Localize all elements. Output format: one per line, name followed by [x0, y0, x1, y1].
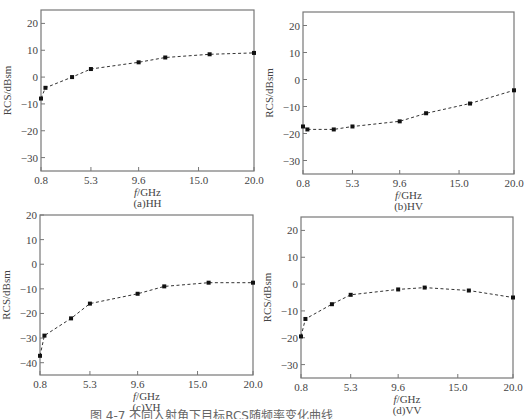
x-tick-label: 5.3	[346, 177, 360, 189]
data-point-marker	[39, 97, 43, 101]
x-tick-label: 5.3	[84, 174, 98, 186]
x-tick-label: 0.8	[296, 177, 310, 189]
data-point-marker	[252, 51, 256, 55]
data-point-marker	[207, 281, 211, 285]
data-point-marker	[350, 124, 354, 128]
y-axis-label: RCS/dBsm	[261, 272, 273, 322]
x-tick-label: 5.3	[83, 378, 97, 390]
data-point-marker	[468, 102, 472, 106]
y-axis-label: RCS/dBsm	[0, 270, 12, 320]
x-tick-label: 15.0	[189, 174, 209, 186]
data-point-marker	[424, 111, 428, 115]
data-point-marker	[137, 60, 141, 64]
data-point-marker	[162, 284, 166, 288]
x-tick-label: 15.0	[449, 177, 469, 189]
plot-frame	[41, 10, 254, 171]
y-tick-label: 0	[32, 258, 38, 270]
y-tick-label: 10	[287, 251, 299, 263]
data-series-line	[303, 90, 514, 129]
x-tick-label: 20.0	[243, 378, 263, 390]
figure-canvas: 20100−10−20−300.85.39.615.020.0RCS/dBsmf…	[0, 0, 531, 419]
x-tick-label: 5.3	[344, 381, 358, 393]
x-tick-label: 15.0	[448, 381, 468, 393]
data-point-marker	[163, 55, 167, 59]
chart-panel-bhv: 20100−10−20−300.85.39.615.020.0RCS/dBsmf…	[263, 12, 524, 213]
data-point-marker	[511, 296, 515, 300]
y-tick-label: −20	[20, 307, 38, 319]
plot-frame	[301, 217, 513, 378]
data-point-marker	[299, 334, 303, 338]
data-point-marker	[301, 124, 305, 128]
panel-title: (a)HH	[133, 197, 161, 210]
x-tick-label: 0.8	[33, 378, 47, 390]
y-tick-label: −30	[20, 332, 38, 344]
data-point-marker	[89, 67, 93, 71]
data-point-marker	[330, 302, 334, 306]
data-point-marker	[208, 52, 212, 56]
data-point-marker	[38, 354, 42, 358]
y-tick-label: 10	[289, 47, 301, 59]
data-point-marker	[136, 292, 140, 296]
y-tick-label: 10	[27, 44, 39, 56]
data-point-marker	[69, 316, 73, 320]
y-tick-label: 0	[295, 74, 301, 86]
plot-frame	[40, 215, 253, 375]
y-tick-label: 20	[27, 17, 39, 29]
chart-panel-dvv: 20100−10−20−300.85.39.615.020.0RCS/dBsmf…	[261, 217, 523, 417]
data-point-marker	[88, 302, 92, 306]
x-tick-label: 0.8	[34, 174, 48, 186]
data-point-marker	[43, 86, 47, 90]
y-tick-label: 0	[33, 71, 39, 83]
y-tick-label: −40	[20, 357, 38, 369]
panel-title: (b)HV	[394, 200, 423, 213]
figure-caption: 图 4-7 不同入射角下目标RCS随频率变化曲线	[90, 406, 333, 419]
y-tick-label: 0	[293, 278, 299, 290]
data-point-marker	[467, 289, 471, 293]
y-tick-label: −30	[281, 359, 299, 371]
x-tick-label: 20.0	[503, 381, 523, 393]
data-point-marker	[398, 119, 402, 123]
data-point-marker	[349, 293, 353, 297]
y-tick-label: 10	[26, 234, 38, 246]
data-point-marker	[305, 127, 309, 131]
y-tick-label: −10	[21, 98, 39, 110]
plot-frame	[303, 12, 514, 174]
y-tick-label: −20	[281, 332, 299, 344]
data-point-marker	[70, 75, 74, 79]
x-tick-label: 15.0	[188, 378, 208, 390]
data-series-line	[301, 288, 513, 337]
data-point-marker	[251, 281, 255, 285]
y-tick-label: 20	[26, 209, 38, 221]
x-tick-label: 9.6	[132, 174, 146, 186]
chart-panel-ahh: 20100−10−20−300.85.39.615.020.0RCS/dBsmf…	[1, 10, 264, 210]
y-tick-label: −20	[283, 128, 301, 140]
data-point-marker	[42, 334, 46, 338]
x-tick-label: 20.0	[504, 177, 524, 189]
data-point-marker	[332, 127, 336, 131]
y-tick-label: 20	[289, 20, 301, 32]
chart-panel-cvh: 20100−10−20−30−400.85.39.615.020.0RCS/dB…	[0, 209, 263, 414]
y-axis-label: RCS/dBsm	[263, 68, 275, 118]
y-tick-label: −10	[283, 101, 301, 113]
panel-title: (d)VV	[393, 404, 422, 417]
y-tick-label: −30	[21, 152, 39, 164]
data-point-marker	[303, 317, 307, 321]
y-tick-label: −10	[20, 283, 38, 295]
x-tick-label: 9.6	[391, 381, 405, 393]
data-point-marker	[512, 88, 516, 92]
x-tick-label: 20.0	[244, 174, 264, 186]
y-tick-label: −20	[21, 125, 39, 137]
x-tick-label: 9.6	[131, 378, 145, 390]
x-tick-label: 9.6	[393, 177, 407, 189]
y-tick-label: −10	[281, 305, 299, 317]
data-point-marker	[423, 286, 427, 290]
y-axis-label: RCS/dBsm	[1, 65, 13, 115]
x-tick-label: 0.8	[294, 381, 308, 393]
y-tick-label: 20	[287, 224, 299, 236]
data-point-marker	[396, 287, 400, 291]
y-tick-label: −30	[283, 155, 301, 167]
